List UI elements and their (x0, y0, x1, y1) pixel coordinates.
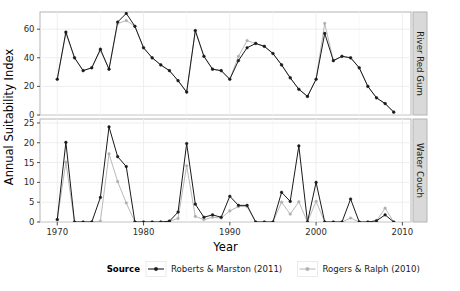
data-point (203, 55, 206, 58)
data-point (358, 221, 361, 224)
data-point (306, 95, 309, 98)
data-point (272, 221, 275, 224)
data-point (297, 88, 300, 91)
data-point (289, 76, 292, 79)
data-point (384, 102, 387, 105)
x-tick-label: 1990 (219, 227, 241, 237)
data-point (73, 56, 76, 59)
data-point (237, 59, 240, 62)
data-point (332, 221, 335, 224)
data-point (151, 221, 154, 224)
annual-suitability-index-chart: 0204060River Red Gum0510152025Water Couc… (0, 0, 460, 291)
data-point (297, 200, 300, 203)
facet-panel-water-couch: 0510152025Water Couch (24, 118, 427, 227)
data-point (323, 32, 326, 35)
data-point (228, 210, 231, 213)
data-point (151, 56, 154, 59)
y-tick-label: 5 (29, 197, 34, 207)
data-point (254, 42, 257, 45)
data-point (392, 221, 395, 224)
data-point (194, 29, 197, 32)
data-point (177, 211, 180, 214)
data-point (142, 46, 145, 49)
facet-panel-river-red-gum: 0204060River Red Gum (24, 12, 427, 120)
data-point (116, 180, 119, 183)
data-point (177, 217, 180, 220)
data-point (341, 221, 344, 224)
data-point (289, 213, 292, 216)
chart-container: 0204060River Red Gum0510152025Water Couc… (0, 0, 460, 291)
data-point (358, 66, 361, 69)
data-point (349, 198, 352, 201)
data-point (194, 203, 197, 206)
legend-item-roberts-marston[interactable]: Roberts & Marston (2011) (146, 262, 282, 277)
data-point (384, 214, 387, 217)
data-point (82, 69, 85, 72)
data-point (228, 195, 231, 198)
data-point (384, 207, 387, 210)
data-point (246, 46, 249, 49)
data-point (375, 96, 378, 99)
data-point (194, 215, 197, 218)
legend-item-label: Roberts & Marston (2011) (171, 264, 282, 274)
data-point (280, 201, 283, 204)
data-point (375, 219, 378, 222)
data-point (82, 221, 85, 224)
y-tick-label: 40 (24, 53, 35, 63)
data-point (237, 204, 240, 207)
legend-key-marker (306, 267, 309, 270)
y-tick-label: 20 (24, 138, 35, 148)
data-point (134, 221, 137, 224)
y-tick-label: 10 (24, 177, 35, 187)
y-tick-label: 20 (24, 81, 35, 91)
data-point (349, 217, 352, 220)
data-point (220, 216, 223, 219)
data-point (237, 55, 240, 58)
data-point (185, 164, 188, 167)
x-tick-label: 2010 (392, 227, 414, 237)
data-point (211, 214, 214, 217)
data-point (315, 78, 318, 81)
data-point (99, 196, 102, 199)
data-point (306, 221, 309, 224)
y-tick-label: 60 (24, 24, 35, 34)
data-point (228, 78, 231, 81)
data-point (65, 141, 68, 144)
data-point (168, 69, 171, 72)
data-point (211, 68, 214, 71)
legend-title: Source (107, 264, 141, 274)
data-point (297, 145, 300, 148)
data-point (134, 25, 137, 28)
data-point (125, 12, 128, 15)
data-point (125, 165, 128, 168)
data-point (367, 221, 370, 224)
data-point (315, 181, 318, 184)
data-point (185, 91, 188, 94)
data-point (332, 59, 335, 62)
data-point (246, 204, 249, 207)
data-point (263, 221, 266, 224)
data-point (125, 19, 128, 22)
data-point (315, 200, 318, 203)
data-point (289, 200, 292, 203)
data-point (159, 64, 162, 67)
x-tick-label: 1980 (133, 227, 155, 237)
data-point (280, 64, 283, 67)
data-point (177, 79, 180, 82)
data-point (90, 221, 93, 224)
legend-item-rogers-ralph[interactable]: Rogers & Ralph (2010) (297, 262, 419, 277)
data-point (246, 39, 249, 42)
data-point (116, 155, 119, 158)
data-point (108, 126, 111, 129)
data-point (65, 31, 68, 34)
data-point (90, 66, 93, 69)
data-point (56, 78, 59, 81)
data-point (341, 55, 344, 58)
data-point (323, 22, 326, 25)
x-axis: 19701980199020002010Year (46, 222, 413, 254)
data-point (254, 221, 257, 224)
legend-item-label: Rogers & Ralph (2010) (322, 264, 419, 274)
y-tick-label: 15 (24, 158, 35, 168)
facet-strip-label: Water Couch (415, 143, 425, 198)
data-point (185, 142, 188, 145)
